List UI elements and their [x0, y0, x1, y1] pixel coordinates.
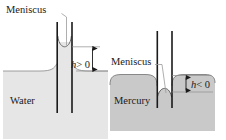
height-operator-water: > 0: [76, 59, 90, 70]
diagram-canvas: [0, 0, 226, 140]
height-label-mercury: h< 0: [191, 80, 210, 91]
water-column-in-tube: [57, 42, 72, 139]
mercury-column-in-tube: [157, 89, 172, 132]
liquid-label-water: Water: [10, 96, 35, 107]
meniscus-label-mercury: Meniscus: [111, 57, 151, 68]
height-label-water: h> 0: [71, 60, 90, 71]
water-meniscus-leader-line: [62, 14, 67, 46]
height-operator-mercury: < 0: [196, 79, 210, 90]
capillary-action-figure: Meniscus Water h> 0 Meniscus Mercury h< …: [0, 0, 226, 140]
water-surface-line: [3, 64, 57, 72]
water-panel-group: [3, 14, 108, 140]
liquid-label-mercury: Mercury: [114, 96, 150, 107]
meniscus-label-water: Meniscus: [6, 5, 46, 16]
water-body-fill-right: [72, 64, 108, 139]
